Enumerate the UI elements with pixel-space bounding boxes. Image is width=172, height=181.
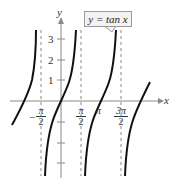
x-tick-pi-over-2: π 2	[76, 106, 86, 127]
branch-4	[125, 82, 150, 176]
x-tick-neg-pi-over-2: π 2	[36, 106, 46, 127]
axes	[10, 22, 160, 178]
frac-den: 2	[76, 117, 86, 127]
frac-den: 2	[36, 117, 46, 127]
asymptotes	[41, 30, 121, 176]
function-callout: y = tan x	[84, 11, 132, 27]
frac-den: 2	[114, 117, 128, 127]
neg-sign: −	[29, 112, 35, 123]
y-axis-label: y	[57, 7, 62, 18]
y-axis-arrow-icon	[58, 17, 64, 24]
y-tick-2: 2	[48, 55, 54, 66]
x-tick-pi: π	[96, 106, 101, 116]
x-tick-3pi-over-2: 3π 2	[114, 106, 128, 127]
y-tick-1: 1	[48, 75, 54, 86]
x-axis-label: x	[164, 95, 169, 106]
branch-3	[85, 30, 116, 176]
tan-graph	[0, 0, 172, 181]
callout-text: y = tan x	[88, 13, 128, 25]
y-tick-3: 3	[48, 34, 54, 45]
